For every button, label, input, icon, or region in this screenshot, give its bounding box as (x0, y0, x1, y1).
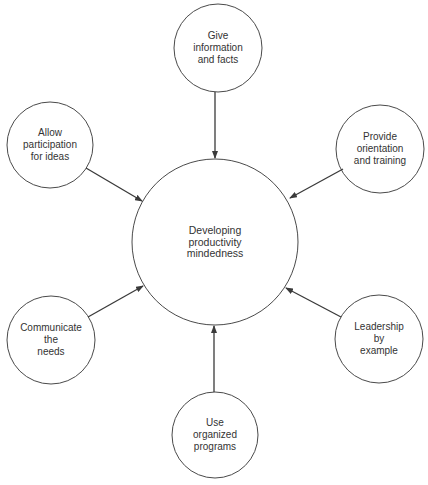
node-label-line: participation (23, 139, 77, 151)
node-label-line: needs (20, 346, 82, 358)
node-label-line: by (354, 333, 403, 345)
center-label-line-3: mindedness (187, 248, 244, 260)
node-label-line: Leadership (354, 321, 403, 333)
node-label-line: orientation (354, 143, 406, 155)
arrow-top-left-to-center (86, 168, 142, 201)
node-label-line: programs (193, 441, 237, 453)
node-label-give-information: Give information and facts (193, 30, 242, 66)
node-label-line: organized (193, 429, 237, 441)
node-label-line: Use (193, 417, 237, 429)
node-label-allow-participation: Allow participation for ideas (23, 127, 77, 163)
node-label-line: and facts (193, 54, 242, 66)
node-label-use-organized-programs: Use organized programs (193, 417, 237, 453)
node-label-line: for ideas (23, 151, 77, 163)
node-label-line: Communicate (20, 322, 82, 334)
arrow-top-right-to-center (290, 169, 343, 198)
node-label-provide-orientation: Provide orientation and training (354, 131, 406, 167)
arrow-bottom-right-to-center (286, 288, 341, 317)
node-label-line: information (193, 42, 242, 54)
node-label-line: example (354, 345, 403, 357)
node-label-line: the (20, 334, 82, 346)
node-label-line: Allow (23, 127, 77, 139)
node-label-line: Give (193, 30, 242, 42)
node-label-leadership: Leadership by example (354, 321, 403, 357)
node-label-communicate-needs: Communicate the needs (20, 322, 82, 358)
center-node-label: Developing productivity mindedness (187, 225, 244, 260)
center-label-line-1: Developing (187, 225, 244, 237)
node-label-line: Provide (354, 131, 406, 143)
node-label-line: and training (354, 155, 406, 167)
arrow-bottom-left-to-center (88, 286, 143, 317)
